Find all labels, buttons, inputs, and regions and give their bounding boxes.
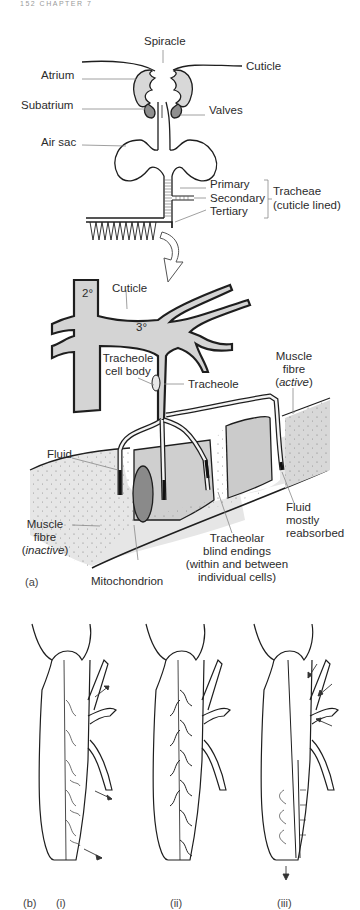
label-fluid-reabsorbed-line1: Fluid — [286, 501, 344, 514]
label-muscle-active: Muscle fibre (active) — [268, 350, 320, 389]
label-fluid-reabsorbed-line2: mostly — [286, 514, 344, 527]
label-atrium: Atrium — [41, 69, 74, 82]
label-muscle-active-line2: fibre — [268, 363, 320, 376]
label-cuticle-top: Cuticle — [246, 60, 281, 73]
label-blind-endings-line2: blind endings — [176, 545, 298, 558]
label-muscle-inactive: Muscle fibre (inactive) — [18, 518, 72, 557]
label-mitochondrion: Mitochondrion — [91, 575, 163, 588]
label-valves: Valves — [209, 104, 243, 117]
label-muscle-inactive-line3: (inactive) — [18, 544, 72, 557]
panel-label-b: (b) — [23, 897, 36, 909]
label-3rd-order: 3° — [136, 321, 147, 334]
label-tracheolar-blind-endings: Tracheolar blind endings (within and bet… — [176, 532, 298, 584]
label-spiracle: Spiracle — [144, 35, 186, 48]
sublabel-i: (i) — [56, 897, 66, 909]
label-tracheole-cell-body-line1: Tracheole — [102, 352, 154, 365]
label-tracheae: Tracheae — [273, 185, 321, 198]
label-air-sac: Air sac — [41, 136, 76, 149]
label-blind-endings-line4: individual cells) — [176, 571, 298, 584]
label-tracheae-cuticle-lined: (cuticle lined) — [273, 199, 341, 212]
label-secondary: Secondary — [210, 192, 265, 205]
label-blind-endings-line1: Tracheolar — [176, 532, 298, 545]
label-muscle-inactive-line1: Muscle — [18, 518, 72, 531]
label-primary: Primary — [210, 178, 250, 191]
mitochondrion — [133, 466, 153, 522]
label-tracheole-cell-body: Tracheole cell body — [102, 352, 154, 378]
label-muscle-active-line1: Muscle — [268, 350, 320, 363]
label-fluid: Fluid — [47, 448, 72, 461]
label-tracheole-cell-body-line2: cell body — [102, 365, 154, 378]
panel-label-a: (a) — [25, 576, 38, 588]
label-muscle-active-line3: (active) — [268, 376, 320, 389]
label-cuticle-detail: Cuticle — [112, 282, 147, 295]
label-muscle-inactive-line2: fibre — [18, 531, 72, 544]
label-tertiary: Tertiary — [210, 205, 248, 218]
sublabel-ii: (ii) — [170, 897, 182, 909]
label-subatrium: Subatrium — [21, 99, 73, 112]
label-blind-endings-line3: (within and between — [176, 558, 298, 571]
label-2nd-order: 2° — [82, 287, 93, 300]
label-tracheole: Tracheole — [188, 378, 239, 391]
sublabel-iii: (iii) — [277, 897, 292, 909]
